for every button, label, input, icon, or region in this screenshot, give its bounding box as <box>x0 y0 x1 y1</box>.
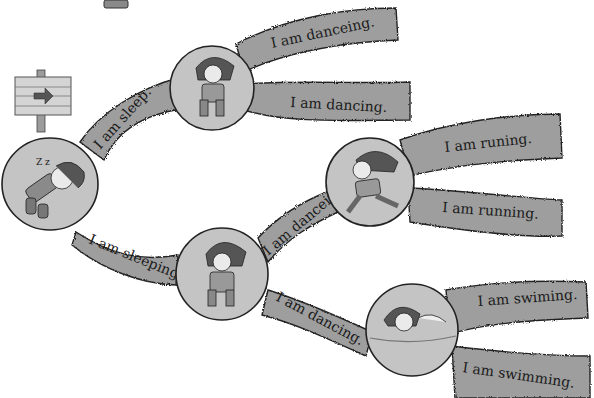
svg-text:Z z: Z z <box>36 157 50 167</box>
signpost <box>15 70 71 132</box>
node-dancing-top[interactable] <box>170 46 254 130</box>
partial-object-top <box>104 0 128 8</box>
node-dancing-middle[interactable] <box>176 228 268 320</box>
node-swimming[interactable] <box>366 284 458 376</box>
node-sleeping[interactable]: Z z <box>2 138 98 230</box>
word-maze-illustration: I am sleep. I am sleeping. I am danceing… <box>0 0 594 398</box>
node-running[interactable] <box>326 138 414 226</box>
